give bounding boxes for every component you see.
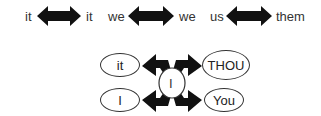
word-it-left: it [25,10,32,23]
double-arrow-icon [226,6,272,26]
word-we-left: we [108,10,125,23]
word-them: them [276,10,305,23]
node-I-left: I [100,88,140,112]
node-I-center: I [169,77,173,90]
node-THOU: THOU [202,50,250,80]
word-us: us [210,10,224,23]
node-You: You [204,88,244,112]
word-we-right: we [179,10,196,23]
double-arrow-icon [37,6,81,26]
double-arrow-icon [128,6,174,26]
node-it: it [100,53,140,77]
word-it-right: it [86,10,93,23]
